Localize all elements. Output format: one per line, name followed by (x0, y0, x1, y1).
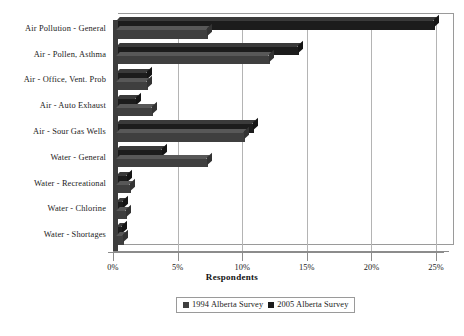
bar-top-face (116, 52, 272, 56)
bar-face (118, 159, 208, 167)
bar-top-face (116, 78, 149, 82)
axis-tick (113, 252, 114, 261)
bar (118, 133, 245, 141)
bar-end-face (123, 230, 128, 243)
bar-end-face (207, 24, 212, 37)
plot-area (113, 13, 454, 252)
value-axis-tick-label: 15% (287, 263, 327, 272)
bar-top-face (116, 104, 154, 108)
chart-legend: 1994 Alberta Survey2005 Alberta Survey (176, 297, 355, 313)
category-label: Air - Pollen, Asthma (0, 50, 106, 59)
axis-tick (436, 252, 437, 261)
category-label: Water - Chlorine (0, 204, 106, 213)
legend-entry: 1994 Alberta Survey (183, 300, 263, 309)
category-label: Water - Recreational (0, 179, 106, 188)
bar (118, 211, 127, 219)
bar-top-face (116, 26, 210, 30)
bar-top-face (116, 129, 246, 133)
bar-face (118, 108, 153, 116)
bar (118, 159, 208, 167)
value-axis-tick-label: 5% (158, 263, 198, 272)
bar-chart: Air Pollution - GeneralAir - Pollen, Ast… (0, 0, 464, 336)
axis-tick (178, 252, 179, 261)
axis-tick (371, 252, 372, 261)
bar (118, 185, 131, 193)
value-axis-tick-label: 0% (93, 263, 133, 272)
bar-top-face (116, 69, 149, 73)
legend-label: 1994 Alberta Survey (192, 300, 263, 309)
category-label: Water - Shortages (0, 230, 106, 239)
bar-face (118, 185, 131, 193)
category-label: Air - Office, Vent. Prob (0, 75, 106, 84)
bar (118, 30, 208, 38)
value-axis-tick-label: 20% (351, 263, 391, 272)
bar (118, 236, 124, 244)
bar (118, 82, 148, 90)
axis-tick (242, 252, 243, 261)
bar-end-face (269, 50, 274, 63)
bar-face (118, 30, 208, 38)
value-axis-tick-label: 10% (222, 263, 262, 272)
legend-entry: 2005 Alberta Survey (268, 300, 348, 309)
legend-swatch (268, 302, 274, 308)
bar-top-face (116, 146, 165, 150)
bar-top-face (116, 17, 436, 21)
bar (118, 108, 153, 116)
bars (118, 13, 454, 245)
category-label: Air Pollution - General (0, 24, 106, 33)
bar-top-face (116, 43, 301, 47)
bar-face (118, 133, 245, 141)
bar-top-face (116, 155, 210, 159)
x-axis-title: Respondents (0, 272, 464, 282)
bar-end-face (253, 118, 258, 131)
value-axis-tick-label: 25% (416, 263, 456, 272)
bar-end-face (207, 153, 212, 166)
legend-swatch (183, 302, 189, 308)
value-axis-front-line (108, 252, 444, 253)
category-label: Air - Sour Gas Wells (0, 127, 106, 136)
category-label: Air - Auto Exhaust (0, 101, 106, 110)
axis-tick (307, 252, 308, 261)
category-axis-labels: Air Pollution - GeneralAir - Pollen, Ast… (0, 16, 106, 252)
legend-label: 2005 Alberta Survey (277, 300, 348, 309)
bar-face (118, 82, 148, 90)
category-label: Water - General (0, 153, 106, 162)
bar (118, 56, 270, 64)
bar-face (118, 56, 270, 64)
bar-top-face (116, 120, 255, 124)
